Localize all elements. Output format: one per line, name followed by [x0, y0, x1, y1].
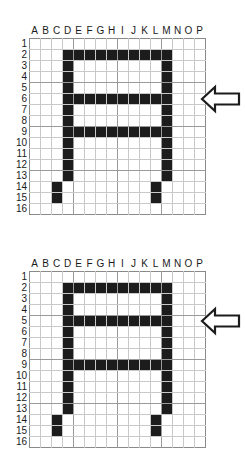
grid-cell-L14[interactable] [150, 181, 161, 192]
grid-cell-K5[interactable] [139, 315, 150, 326]
grid-cell-D5[interactable] [62, 82, 73, 93]
grid-cell-D3[interactable] [62, 60, 73, 71]
grid-cell-D10[interactable] [62, 137, 73, 148]
grid-cell-C15[interactable] [51, 425, 62, 436]
grid-cell-L2[interactable] [150, 49, 161, 60]
grid-cell-D9[interactable] [62, 359, 73, 370]
grid-cell-I2[interactable] [117, 282, 128, 293]
grid-cell-D6[interactable] [62, 93, 73, 104]
grid-cell-D4[interactable] [62, 71, 73, 82]
grid-cell-C14[interactable] [51, 414, 62, 425]
grid-cell-F5[interactable] [84, 315, 95, 326]
grid-cell-E2[interactable] [73, 282, 84, 293]
grid-cell-D3[interactable] [62, 293, 73, 304]
grid-cell-E6[interactable] [73, 93, 84, 104]
grid-cell-C14[interactable] [51, 181, 62, 192]
grid-cell-L2[interactable] [150, 282, 161, 293]
grid-cell-F9[interactable] [84, 359, 95, 370]
grid-cell-H5[interactable] [106, 315, 117, 326]
grid-cell-M2[interactable] [161, 282, 172, 293]
grid-cell-M12[interactable] [161, 392, 172, 403]
grid-cell-D6[interactable] [62, 326, 73, 337]
grid-cell-E9[interactable] [73, 359, 84, 370]
grid-cell-J9[interactable] [128, 359, 139, 370]
grid-cell-D11[interactable] [62, 381, 73, 392]
grid-cell-D2[interactable] [62, 49, 73, 60]
grid-cell-M3[interactable] [161, 60, 172, 71]
grid-cell-F9[interactable] [84, 126, 95, 137]
grid-cell-E2[interactable] [73, 49, 84, 60]
pixel-grid-bottom[interactable] [29, 271, 206, 448]
grid-cell-H2[interactable] [106, 49, 117, 60]
grid-cell-D7[interactable] [62, 104, 73, 115]
grid-cell-H9[interactable] [106, 359, 117, 370]
grid-cell-H9[interactable] [106, 126, 117, 137]
grid-cell-L14[interactable] [150, 414, 161, 425]
grid-cell-D12[interactable] [62, 392, 73, 403]
grid-cell-E5[interactable] [73, 315, 84, 326]
grid-cell-G2[interactable] [95, 49, 106, 60]
grid-cell-M4[interactable] [161, 304, 172, 315]
grid-cell-L6[interactable] [150, 93, 161, 104]
grid-cell-F6[interactable] [84, 93, 95, 104]
grid-cell-I5[interactable] [117, 315, 128, 326]
grid-cell-L5[interactable] [150, 315, 161, 326]
grid-cell-H2[interactable] [106, 282, 117, 293]
grid-cell-G5[interactable] [95, 315, 106, 326]
pixel-grid-top[interactable] [29, 38, 206, 215]
grid-cell-L9[interactable] [150, 126, 161, 137]
grid-cell-I9[interactable] [117, 126, 128, 137]
grid-cell-M13[interactable] [161, 170, 172, 181]
grid-cell-M7[interactable] [161, 337, 172, 348]
grid-cell-M6[interactable] [161, 93, 172, 104]
grid-cell-M12[interactable] [161, 159, 172, 170]
grid-cell-J5[interactable] [128, 315, 139, 326]
grid-cell-K9[interactable] [139, 126, 150, 137]
grid-cell-D11[interactable] [62, 148, 73, 159]
grid-cell-M11[interactable] [161, 148, 172, 159]
grid-cell-K2[interactable] [139, 282, 150, 293]
grid-cell-J2[interactable] [128, 49, 139, 60]
grid-cell-G9[interactable] [95, 359, 106, 370]
grid-cell-L15[interactable] [150, 425, 161, 436]
grid-cell-D2[interactable] [62, 282, 73, 293]
grid-cell-D4[interactable] [62, 304, 73, 315]
grid-cell-M2[interactable] [161, 49, 172, 60]
grid-cell-J2[interactable] [128, 282, 139, 293]
grid-cell-D13[interactable] [62, 403, 73, 414]
grid-cell-E9[interactable] [73, 126, 84, 137]
grid-cell-M4[interactable] [161, 71, 172, 82]
grid-cell-M8[interactable] [161, 115, 172, 126]
grid-cell-D5[interactable] [62, 315, 73, 326]
grid-cell-M8[interactable] [161, 348, 172, 359]
grid-cell-G9[interactable] [95, 126, 106, 137]
grid-cell-F2[interactable] [84, 282, 95, 293]
grid-cell-I6[interactable] [117, 93, 128, 104]
grid-cell-M11[interactable] [161, 381, 172, 392]
grid-cell-M9[interactable] [161, 126, 172, 137]
grid-cell-J9[interactable] [128, 126, 139, 137]
grid-cell-M9[interactable] [161, 359, 172, 370]
grid-cell-K6[interactable] [139, 93, 150, 104]
grid-cell-I9[interactable] [117, 359, 128, 370]
grid-cell-M5[interactable] [161, 82, 172, 93]
grid-cell-K2[interactable] [139, 49, 150, 60]
grid-cell-D13[interactable] [62, 170, 73, 181]
grid-cell-L9[interactable] [150, 359, 161, 370]
grid-cell-D9[interactable] [62, 126, 73, 137]
grid-cell-D12[interactable] [62, 159, 73, 170]
grid-cell-L15[interactable] [150, 192, 161, 203]
grid-cell-D8[interactable] [62, 348, 73, 359]
grid-cell-D8[interactable] [62, 115, 73, 126]
grid-cell-M10[interactable] [161, 137, 172, 148]
grid-cell-H6[interactable] [106, 93, 117, 104]
grid-cell-M5[interactable] [161, 315, 172, 326]
grid-cell-M3[interactable] [161, 293, 172, 304]
grid-cell-D10[interactable] [62, 370, 73, 381]
grid-cell-K9[interactable] [139, 359, 150, 370]
grid-cell-J6[interactable] [128, 93, 139, 104]
grid-cell-G2[interactable] [95, 282, 106, 293]
grid-cell-C15[interactable] [51, 192, 62, 203]
grid-cell-D7[interactable] [62, 337, 73, 348]
grid-cell-G6[interactable] [95, 93, 106, 104]
